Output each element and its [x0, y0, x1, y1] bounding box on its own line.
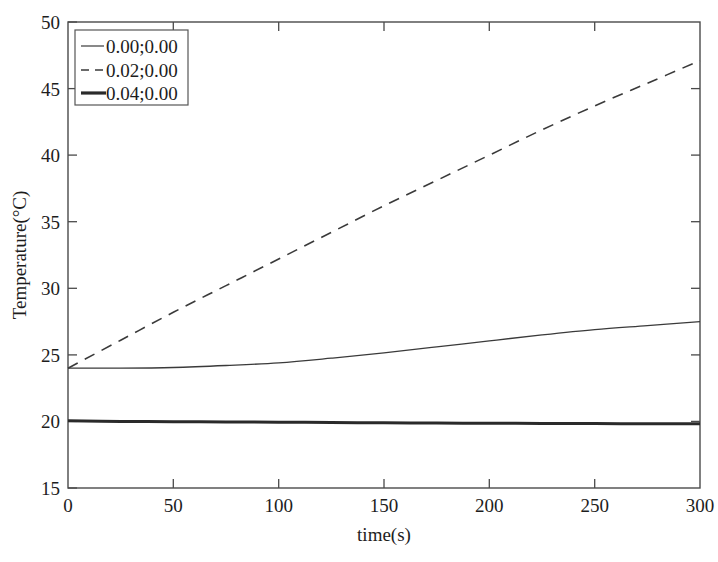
figure-container: 15 20 25 30 35 40 45 50 0 50 100 150 200… — [0, 0, 718, 562]
x-tick-label: 250 — [580, 495, 609, 516]
y-tick-label: 35 — [41, 212, 60, 233]
y-tick-label: 40 — [41, 145, 60, 166]
y-tick-label: 15 — [41, 478, 60, 499]
legend: 0.00;0.00 0.02;0.00 0.04;0.00 — [75, 30, 188, 105]
y-tick-label: 45 — [41, 79, 60, 100]
y-tick-label: 30 — [41, 278, 60, 299]
y-axis-title: Temperature(°C) — [9, 191, 31, 320]
x-tick-label: 150 — [370, 495, 399, 516]
x-tick-label: 300 — [686, 495, 715, 516]
line-chart: 15 20 25 30 35 40 45 50 0 50 100 150 200… — [0, 0, 718, 562]
legend-label-0: 0.00;0.00 — [106, 36, 178, 57]
legend-label-2: 0.04;0.00 — [106, 83, 178, 104]
x-tick-label: 200 — [475, 495, 504, 516]
x-axis-title: time(s) — [357, 524, 411, 546]
y-tick-label: 20 — [41, 411, 60, 432]
x-tick-label: 100 — [264, 495, 293, 516]
x-tick-label: 0 — [63, 495, 73, 516]
y-tick-labels: 15 20 25 30 35 40 45 50 — [41, 12, 60, 499]
legend-label-1: 0.02;0.00 — [106, 60, 178, 81]
y-tick-label: 25 — [41, 345, 60, 366]
x-tick-labels: 0 50 100 150 200 250 300 — [63, 495, 714, 516]
x-tick-label: 50 — [164, 495, 183, 516]
y-tick-label: 50 — [41, 12, 60, 33]
